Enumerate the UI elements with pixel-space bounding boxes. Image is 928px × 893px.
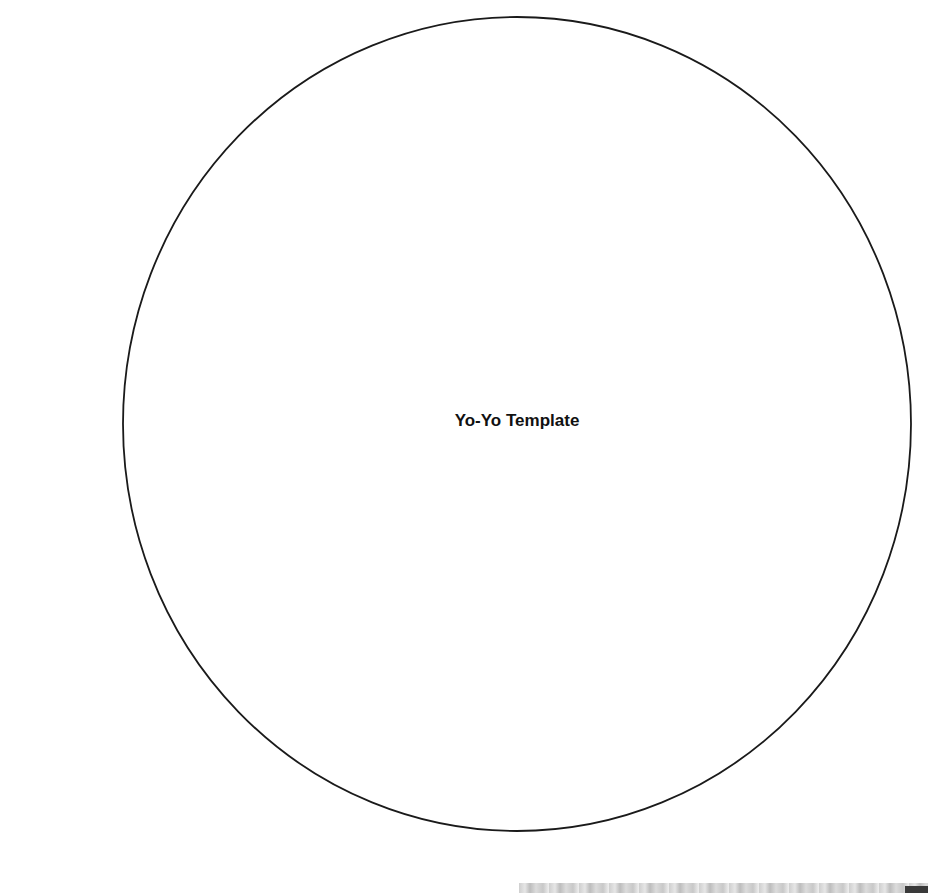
yoyo-circle-outline <box>0 0 928 893</box>
template-page: Yo-Yo Template <box>0 0 928 893</box>
template-title: Yo-Yo Template <box>417 411 617 431</box>
scan-artifact-mark <box>905 886 928 893</box>
scan-artifact-strip <box>519 883 928 893</box>
